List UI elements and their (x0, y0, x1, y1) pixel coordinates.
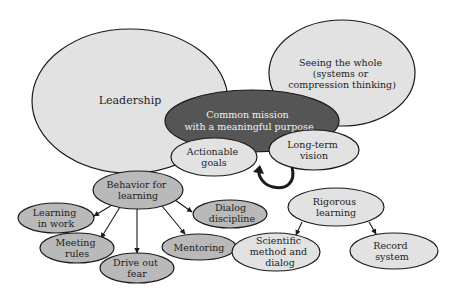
node-long-term-vision: Long-term vision (269, 130, 359, 170)
scientific-method-line-1: Scientific (256, 235, 301, 246)
dialog-discipline-line-2: discipline (209, 213, 256, 224)
meeting-rules-line-2: rules (65, 248, 89, 259)
seeing-whole-line-3: compression thinking) (288, 79, 396, 90)
svg-text:Leadership: Leadership (99, 94, 161, 107)
rigorous-learning-line-2: learning (316, 207, 356, 218)
rigorous-learning-line-1: Rigorous (313, 196, 356, 207)
seeing-whole-line-1: Seeing the whole (299, 57, 383, 68)
svg-text:Learning in work: Learning in work (33, 207, 80, 229)
leadership-label: Leadership (99, 94, 161, 107)
long-term-vision-line-2: vision (299, 150, 328, 161)
curved-loop-arrow-icon (253, 165, 293, 188)
behavior-line-1: Behavior for (107, 179, 167, 190)
svg-text:Rigorous learning: Rigorous learning (313, 196, 359, 218)
node-behavior-for-learning: Behavior for learning (93, 171, 183, 209)
common-mission-line-1: Common mission (206, 109, 289, 120)
actionable-goals-line-2: goals (201, 157, 227, 168)
seeing-whole-line-2: (systems or (313, 68, 369, 79)
meeting-rules-line-1: Meeting (55, 237, 95, 248)
learning-in-work-line-1: Learning (33, 207, 77, 218)
actionable-goals-line-1: Actionable (186, 146, 239, 157)
mentoring-label: Mentoring (174, 242, 225, 253)
long-term-vision-line-1: Long-term (287, 139, 337, 150)
svg-text:Record system: Record system (373, 240, 410, 262)
node-meeting-rules: Meeting rules (40, 233, 114, 263)
node-record-system: Record system (350, 233, 438, 269)
svg-text:Mentoring: Mentoring (174, 242, 225, 253)
diagram-canvas: Leadership Seeing the whole (systems or … (0, 0, 455, 297)
drive-out-fear-line-2: fear (127, 268, 147, 279)
dialog-discipline-line-1: Dialog (215, 202, 246, 213)
record-system-line-1: Record (373, 240, 407, 251)
behavior-line-2: learning (118, 190, 158, 201)
node-actionable-goals: Actionable goals (171, 138, 257, 176)
node-scientific-method: Scientific method and dialog (232, 233, 320, 271)
node-drive-out-fear: Drive out fear (100, 253, 174, 283)
node-learning-in-work: Learning in work (18, 203, 94, 233)
node-rigorous-learning: Rigorous learning (288, 188, 384, 226)
scientific-method-line-3: dialog (265, 257, 295, 268)
record-system-line-2: system (375, 251, 409, 262)
node-mentoring: Mentoring (162, 234, 236, 260)
svg-text:Dialog discipline: Dialog discipline (209, 202, 256, 224)
scientific-method-line-2: method and (250, 246, 307, 257)
learning-in-work-line-2: in work (38, 218, 75, 229)
node-dialog-discipline: Dialog discipline (193, 200, 267, 228)
drive-out-fear-line-1: Drive out (113, 257, 158, 268)
common-mission-line-2: with a meaningful purpose (184, 121, 314, 132)
